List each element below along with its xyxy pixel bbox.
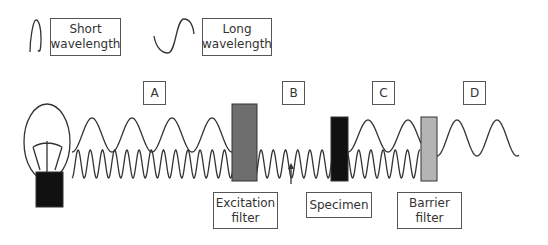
short-wave-icon [30, 20, 41, 52]
long-wave-region-c [348, 120, 421, 152]
short-label-line1: Short [69, 22, 101, 37]
barrier-filter-block [421, 117, 437, 181]
long-wave-icon [154, 19, 194, 53]
barrier-line1: Barrier [409, 196, 450, 211]
region-label-c: C [372, 81, 395, 105]
excitation-line2: filter [232, 211, 260, 226]
long-wavelength-label: Long wavelength [202, 18, 272, 56]
bulb-filament-icon [33, 141, 62, 172]
barrier-line2: filter [416, 211, 444, 226]
short-label-line2: wavelength [51, 37, 121, 52]
short-wavelength-label: Short wavelength [50, 18, 121, 56]
region-label-b: B [282, 81, 305, 105]
long-wave-region-a [72, 118, 232, 152]
specimen-block [331, 117, 348, 181]
excitation-line1: Excitation [216, 196, 275, 211]
long-label-line2: wavelength [202, 37, 272, 52]
specimen-line1: Specimen [309, 198, 368, 213]
long-wave-region-d [437, 120, 519, 156]
excitation-filter-block [232, 104, 257, 181]
barrier-filter-label: Barrier filter [397, 192, 462, 229]
long-label-line1: Long [222, 22, 251, 37]
region-label-a: A [143, 81, 166, 105]
region-label-d: D [463, 81, 486, 105]
excitation-filter-label: Excitation filter [213, 192, 278, 229]
bulb-base [36, 172, 63, 207]
specimen-label: Specimen [306, 192, 372, 218]
